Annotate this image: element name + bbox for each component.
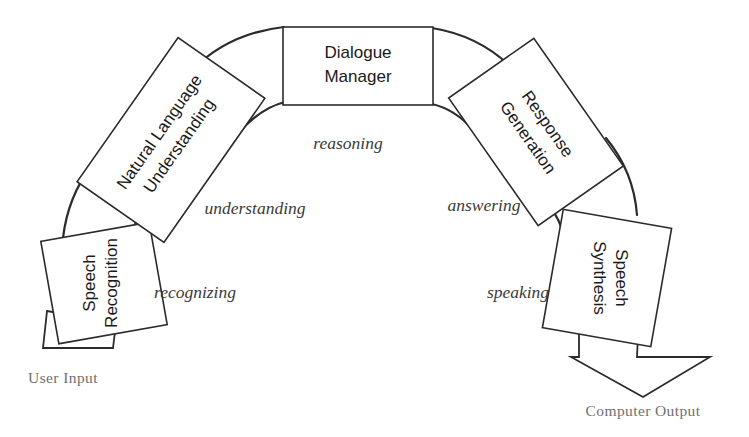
edge-label-understanding: understanding: [204, 198, 305, 218]
dialogue-manager-label-line1: Dialogue: [324, 43, 391, 62]
edge-label-reasoning: reasoning: [313, 133, 383, 153]
dialogue-manager-box: [283, 27, 433, 105]
speech-synthesis-label-line1: Speech: [612, 249, 631, 307]
edge-label-answering: answering: [448, 195, 521, 215]
band-dialogue-to-answering: [432, 28, 510, 66]
pipeline-diagram: Speech Recognition Natural Language Unde…: [0, 0, 749, 437]
speech-synthesis-label-line2: Synthesis: [590, 241, 609, 315]
node-speech-synthesis[interactable]: Speech Synthesis: [542, 209, 671, 346]
dialogue-manager-label-line2: Manager: [324, 67, 391, 86]
edge-label-speaking: speaking: [487, 282, 549, 302]
node-speech-recognition[interactable]: Speech Recognition: [41, 222, 167, 344]
speech-recognition-label-line2: Recognition: [102, 238, 121, 328]
label-user-input: User Input: [28, 369, 98, 386]
label-computer-output: Computer Output: [586, 402, 701, 419]
diagram-canvas: Speech Recognition Natural Language Unde…: [0, 0, 749, 437]
edge-label-recognizing: recognizing: [154, 282, 236, 302]
node-dialogue-manager[interactable]: Dialogue Manager: [283, 27, 433, 105]
speech-recognition-label-line1: Speech: [80, 254, 99, 312]
